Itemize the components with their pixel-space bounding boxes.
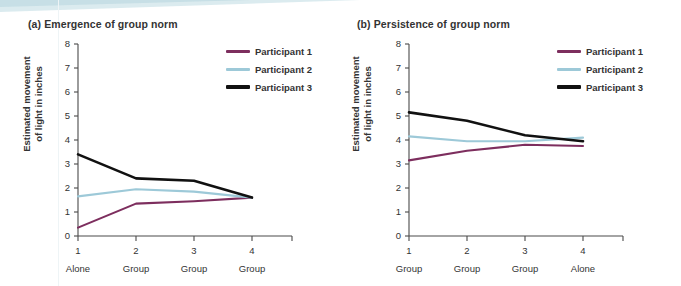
legend-swatch-participant-3 xyxy=(226,85,250,89)
y-tick-label: 6 xyxy=(396,86,401,97)
y-tick-label: 6 xyxy=(65,86,70,97)
y-tick-label: 3 xyxy=(396,158,401,169)
y-tick-label: 1 xyxy=(396,206,401,217)
legend-item-participant-2: Participant 2 xyxy=(226,60,342,78)
legend-label-participant-3: Participant 3 xyxy=(255,82,312,93)
panel-b-persistence: (b) Persistence of group norm Estimated … xyxy=(341,0,681,286)
x-tick-condition: Group xyxy=(239,263,265,274)
legend-swatch-participant-3 xyxy=(557,85,581,89)
y-tick-label: 5 xyxy=(65,110,70,121)
legend-item-participant-2: Participant 2 xyxy=(557,60,673,78)
y-tick-label: 3 xyxy=(65,158,70,169)
x-tick-condition: Alone xyxy=(571,263,595,274)
y-tick-label: 2 xyxy=(396,182,401,193)
y-tick-label: 0 xyxy=(65,230,70,241)
y-tick-label: 7 xyxy=(65,62,70,73)
panel-a-legend: Participant 1 Participant 2 Participant … xyxy=(226,42,342,96)
series-line-participant-1 xyxy=(78,198,252,228)
legend-label-participant-2: Participant 2 xyxy=(586,64,643,75)
series-line-participant-3 xyxy=(409,112,583,141)
legend-swatch-participant-1 xyxy=(557,50,581,53)
y-tick-label: 4 xyxy=(65,134,70,145)
x-tick-number: 1 xyxy=(406,245,411,256)
legend-label-participant-2: Participant 2 xyxy=(255,64,312,75)
x-tick-number: 4 xyxy=(249,245,254,256)
x-tick-number: 2 xyxy=(464,245,469,256)
x-tick-number: 3 xyxy=(191,245,196,256)
x-tick-number: 4 xyxy=(580,245,585,256)
legend-swatch-participant-2 xyxy=(557,68,581,71)
x-tick-condition: Group xyxy=(512,263,538,274)
y-tick-label: 5 xyxy=(396,110,401,121)
x-tick-number: 3 xyxy=(522,245,527,256)
legend-swatch-participant-1 xyxy=(226,50,250,53)
panel-b-legend: Participant 1 Participant 2 Participant … xyxy=(557,42,673,96)
x-tick-number: 1 xyxy=(75,245,80,256)
y-tick-label: 8 xyxy=(65,38,70,49)
legend-label-participant-1: Participant 1 xyxy=(255,46,312,57)
legend-label-participant-1: Participant 1 xyxy=(586,46,643,57)
panel-a-emergence: (a) Emergence of group norm Estimated mo… xyxy=(0,0,340,286)
legend-item-participant-1: Participant 1 xyxy=(557,42,673,60)
y-tick-label: 2 xyxy=(65,182,70,193)
legend-swatch-participant-2 xyxy=(226,68,250,71)
x-tick-condition: Alone xyxy=(66,263,90,274)
y-tick-label: 7 xyxy=(396,62,401,73)
x-tick-number: 2 xyxy=(133,245,138,256)
y-tick-label: 4 xyxy=(396,134,401,145)
y-tick-label: 1 xyxy=(65,206,70,217)
y-tick-label: 8 xyxy=(396,38,401,49)
legend-label-participant-3: Participant 3 xyxy=(586,82,643,93)
x-tick-condition: Group xyxy=(396,263,422,274)
legend-item-participant-3: Participant 3 xyxy=(557,78,673,96)
x-tick-condition: Group xyxy=(454,263,480,274)
x-tick-condition: Group xyxy=(123,263,149,274)
x-tick-condition: Group xyxy=(181,263,207,274)
legend-item-participant-3: Participant 3 xyxy=(226,78,342,96)
y-tick-label: 0 xyxy=(396,230,401,241)
legend-item-participant-1: Participant 1 xyxy=(226,42,342,60)
series-line-participant-1 xyxy=(409,145,583,161)
